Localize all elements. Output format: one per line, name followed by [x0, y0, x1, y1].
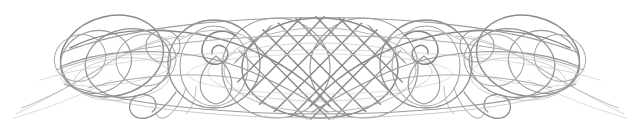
ornamental-divider-graphic: Symmetric calligraphic flourish divider …	[0, 0, 640, 139]
ornament-canvas: Symmetric calligraphic flourish divider …	[0, 0, 640, 139]
